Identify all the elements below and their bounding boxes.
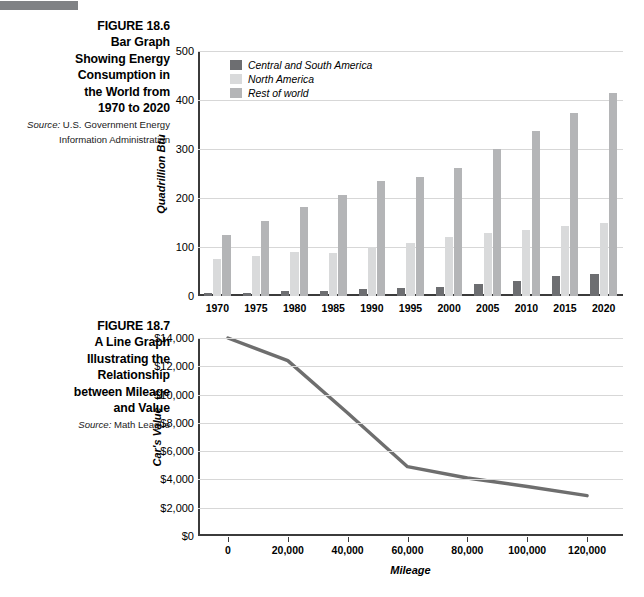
bar-chart-y-tick-label: 400	[176, 94, 194, 106]
figure-18-6-source: Source: U.S. Government Energy Informati…	[12, 118, 170, 146]
bar-chart-gridline	[198, 51, 623, 52]
page-top-rule	[0, 1, 78, 10]
line-chart-y-tick-label: $10,000	[154, 389, 194, 401]
bar-chart-y-tick-label: 0	[188, 290, 194, 302]
line-chart-series-path	[198, 338, 623, 536]
bar-2020-series-1	[600, 223, 608, 297]
line-chart-gridline	[198, 451, 623, 452]
bar-chart-x-tick-label: 1995	[399, 302, 422, 314]
figure-18-7-source: Source: Math League	[12, 418, 170, 432]
bar-chart-x-tick-label: 1980	[283, 302, 306, 314]
line-chart-x-tick-label: 0	[225, 544, 231, 556]
bar-1975-series-2	[261, 221, 269, 296]
bar-chart-x-tick-label: 2000	[437, 302, 460, 314]
source-label: Source:	[27, 119, 60, 130]
bar-1990-series-2	[377, 181, 385, 296]
bar-1990-series-1	[368, 247, 376, 296]
bar-chart-x-tick-label: 1975	[244, 302, 267, 314]
line-chart-x-tick-label: 80,000	[451, 544, 483, 556]
caption-line-0: FIGURE 18.6	[97, 19, 170, 33]
line-chart-y-tick-label: $12,000	[154, 360, 194, 372]
bar-1985-series-1	[329, 253, 337, 296]
bar-2015-series-0	[552, 276, 560, 296]
line-chart-polyline	[228, 338, 587, 496]
bar-2005-series-1	[484, 233, 492, 296]
bar-1980-series-1	[290, 252, 298, 296]
line-chart-x-tick-mark	[288, 537, 289, 542]
line-chart-x-axis-title: Mileage	[390, 564, 430, 576]
caption-line-1: Bar Graph	[111, 35, 170, 49]
figure-18-7-caption-title: FIGURE 18.7 A Line Graph Illustrating th…	[12, 318, 170, 416]
line-chart-y-axis-line	[198, 338, 200, 536]
figure-18-7-caption: FIGURE 18.7 A Line Graph Illustrating th…	[12, 318, 170, 433]
line-chart-x-tick-label: 20,000	[272, 544, 304, 556]
caption-line-0: FIGURE 18.7	[97, 319, 170, 333]
bar-chart-gridline	[198, 198, 623, 199]
bar-2020-series-0	[590, 274, 598, 296]
line-chart-gridline	[198, 338, 623, 339]
figure-18-7: FIGURE 18.7 A Line Graph Illustrating th…	[0, 318, 644, 597]
line-chart-x-tick-mark	[408, 537, 409, 542]
line-chart-y-tick-label: $8,000	[160, 417, 194, 429]
line-chart-x-tick-label: 120,000	[568, 544, 606, 556]
bar-chart-legend: Central and South America North America …	[230, 59, 372, 101]
bar-1980-series-2	[300, 207, 308, 296]
legend-swatch-icon-2	[230, 88, 242, 98]
line-chart-gridline	[198, 366, 623, 367]
bar-2010-series-2	[532, 131, 540, 296]
bar-2000-series-1	[445, 237, 453, 296]
source-text: U.S. Government Energy Information Admin…	[59, 119, 170, 144]
legend-swatch-icon-1	[230, 74, 242, 84]
bar-1990-series-0	[359, 289, 367, 296]
bar-1995-series-1	[406, 243, 414, 296]
bar-chart-gridline	[198, 100, 623, 101]
bar-1995-series-2	[416, 177, 424, 296]
line-chart-x-tick-mark	[587, 537, 588, 542]
legend-item-north-america: North America	[230, 73, 372, 86]
bar-2010-series-1	[522, 230, 530, 296]
bar-chart-y-tick-label: 100	[176, 241, 194, 253]
bar-1970-series-2	[222, 235, 230, 296]
bar-chart-y-tick-label: 200	[176, 192, 194, 204]
bar-chart-x-tick-label: 2015	[553, 302, 576, 314]
bar-1975-series-0	[243, 293, 251, 296]
bar-chart-x-tick-label: 2010	[515, 302, 538, 314]
bar-chart-gridline	[198, 149, 623, 150]
line-chart-gridline	[198, 395, 623, 396]
caption-line-5: 1970 to 2020	[98, 101, 170, 115]
line-chart-y-tick-label: $0	[182, 530, 194, 542]
legend-item-central-and-south-america: Central and South America	[230, 59, 372, 72]
bar-1995-series-0	[397, 288, 405, 296]
bar-chart-y-tick-label: 500	[176, 45, 194, 57]
bar-chart-x-tick-label: 1990	[360, 302, 383, 314]
legend-label-1: North America	[248, 74, 314, 85]
bar-chart-x-tick-label: 2005	[476, 302, 499, 314]
figure-18-6-caption: FIGURE 18.6 Bar Graph Showing Energy Con…	[12, 18, 170, 147]
caption-line-2: Showing Energy	[75, 52, 170, 66]
bar-2000-series-0	[436, 287, 444, 296]
source-label: Source:	[78, 419, 111, 430]
bar-1970-series-0	[204, 293, 212, 296]
bar-2015-series-2	[570, 113, 578, 296]
bar-chart-y-axis-title: Quadrillion Btu	[155, 134, 167, 213]
line-chart-x-tick-label: 100,000	[508, 544, 546, 556]
legend-label-0: Central and South America	[248, 60, 372, 71]
bar-2020-series-2	[609, 93, 617, 296]
line-chart-y-tick-label: $4,000	[160, 473, 194, 485]
bar-1985-series-0	[320, 291, 328, 296]
bar-chart-x-tick-label: 1985	[322, 302, 345, 314]
caption-line-3: Consumption in	[78, 68, 170, 82]
line-chart-x-tick-mark	[348, 537, 349, 542]
bar-chart-plot-area: Central and South America North America …	[198, 51, 623, 296]
bar-1980-series-0	[281, 291, 289, 296]
bar-2015-series-1	[561, 226, 569, 296]
line-chart-y-tick-label: $2,000	[160, 502, 194, 514]
bar-2010-series-0	[513, 281, 521, 296]
line-chart: Car's Value Mileage $0$2,000$4,000$6,000…	[185, 328, 637, 596]
line-chart-x-tick-mark	[228, 537, 229, 542]
bar-1985-series-2	[338, 195, 346, 296]
bar-2005-series-2	[493, 149, 501, 296]
line-chart-x-tick-label: 40,000	[332, 544, 364, 556]
line-chart-gridline	[198, 508, 623, 509]
line-chart-plot-area	[198, 338, 623, 536]
